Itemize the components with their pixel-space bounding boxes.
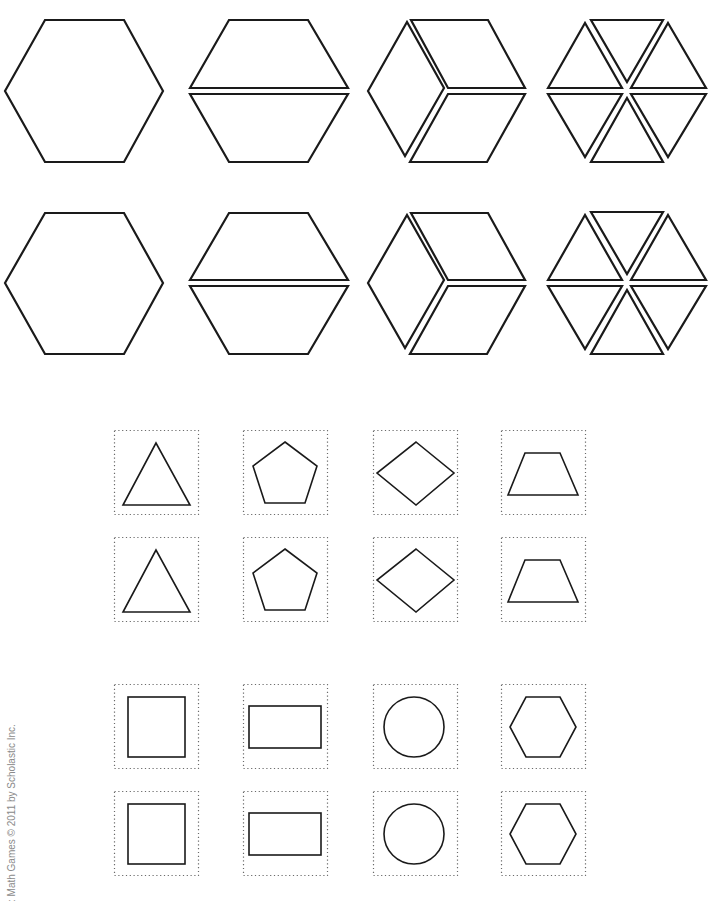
card-circle [374,792,458,876]
hexagon-whole [5,213,163,354]
hexagon-split-triangles [548,20,706,162]
card-rectangle [244,792,328,876]
card-rhombus [374,538,458,622]
rectangle-shape [249,706,321,748]
shape-cards [115,431,586,876]
trapezoid-shape [508,560,578,602]
card-trapezoid [502,431,586,515]
card-triangle [115,431,199,515]
dotted-cut-border [244,685,328,769]
hexagon-split-trapezoids [190,20,348,162]
pentagon-shape [253,549,317,610]
square-shape [128,697,185,757]
card-hexagon [502,792,586,876]
pentagon-shape [253,442,317,503]
rectangle-shape [249,813,321,855]
card-triangle [115,538,199,622]
hexagon-whole [5,20,163,162]
cutout-piece [368,22,444,156]
card-trapezoid [502,538,586,622]
dotted-cut-border [502,431,586,515]
cutout-piece [190,94,348,162]
card-rectangle [244,685,328,769]
trapezoid-shape [508,453,578,495]
card-pentagon [244,431,328,515]
card-square [115,792,199,876]
cutout-piece [190,20,348,88]
rhombus-shape [377,549,454,612]
circle-shape [384,804,444,864]
hexagon-shape [510,804,576,864]
card-circle [374,685,458,769]
cutout-piece [190,213,348,280]
hexagon-split-rhombi [368,213,525,354]
card-square [115,685,199,769]
rhombus-shape [377,442,454,505]
circle-shape [384,697,444,757]
dotted-cut-border [502,538,586,622]
cutout-piece [5,213,163,354]
dotted-cut-border [244,792,328,876]
cutout-piece [190,286,348,354]
cutout-piece [410,286,525,354]
triangle-shape [123,550,190,612]
hexagon-split-triangles [548,212,706,354]
triangle-shape [123,443,190,505]
card-pentagon [244,538,328,622]
card-rhombus [374,431,458,515]
hexagon-split-trapezoids [190,213,348,354]
square-shape [128,804,185,864]
cutout-piece [368,215,444,348]
cutout-piece [410,94,525,162]
copyright-credit: : Math Games © 2011 by Scholastic Inc. [6,712,20,902]
hexagon-pattern-blocks [5,20,706,354]
hexagon-shape [510,697,576,757]
hexagon-split-rhombi [368,20,525,162]
hexagon-row [5,212,706,354]
cutout-piece [411,20,525,88]
cutout-piece [411,213,525,280]
hexagon-row [5,20,706,162]
cutout-piece [5,20,163,162]
card-hexagon [502,685,586,769]
